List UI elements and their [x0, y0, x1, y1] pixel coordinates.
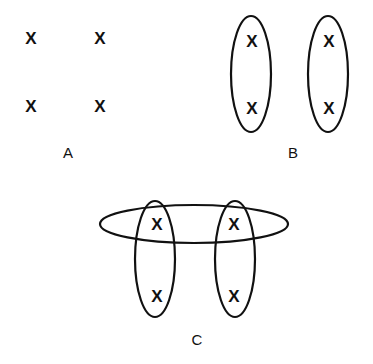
mark-b-top-right: X	[323, 32, 335, 51]
mark-b-top-left: X	[246, 32, 258, 51]
grouping-diagram: X X X X A X X X X B X X X X C	[0, 0, 373, 364]
mark-b-bottom-right: X	[323, 99, 335, 118]
mark-c-top-left: X	[151, 215, 163, 234]
mark-a-bottom-left: X	[25, 97, 37, 116]
panel-a: X X X X A	[25, 29, 106, 161]
mark-c-bottom-right: X	[228, 287, 240, 306]
mark-a-top-left: X	[25, 29, 37, 48]
panel-b-label: B	[288, 144, 298, 161]
panel-c-label: C	[192, 331, 203, 348]
mark-a-bottom-right: X	[94, 97, 106, 116]
panel-c: X X X X C	[100, 201, 288, 348]
mark-c-bottom-left: X	[151, 287, 163, 306]
mark-a-top-right: X	[94, 29, 106, 48]
panel-a-label: A	[63, 144, 73, 161]
ellipse-c-horizontal	[100, 205, 288, 243]
panel-b: X X X X B	[231, 16, 348, 161]
mark-c-top-right: X	[228, 215, 240, 234]
mark-b-bottom-left: X	[246, 99, 258, 118]
